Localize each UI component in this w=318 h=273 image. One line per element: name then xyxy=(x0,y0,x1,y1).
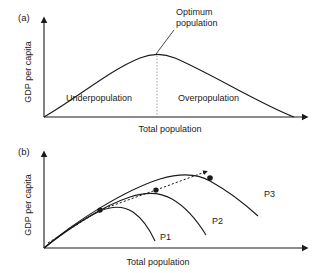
underpopulation-label: Underpopulation xyxy=(66,93,132,103)
peak-marker-p2 xyxy=(153,187,158,192)
curve-p2 xyxy=(44,193,206,248)
trajectory-segment-2 xyxy=(100,190,156,210)
panel-a: (a) GDP per capita Optimum population Un… xyxy=(18,7,303,134)
peak-marker-p3 xyxy=(207,175,213,181)
population-gdp-diagram: (a) GDP per capita Optimum population Un… xyxy=(0,0,318,273)
panel-b-x-axis-label: Total population xyxy=(126,257,189,267)
optimum-leader-line xyxy=(156,30,174,54)
panel-a-x-axis-label: Total population xyxy=(138,124,201,134)
panel-a-curve xyxy=(44,54,294,117)
optimum-annotation-line2: population xyxy=(176,18,218,28)
panel-a-label: (a) xyxy=(18,12,30,23)
curve-label-p3: P3 xyxy=(264,189,275,199)
panel-b-y-axis-label: GDP per capita xyxy=(23,174,33,235)
panel-b-label: (b) xyxy=(18,146,30,157)
trajectory-segment-1 xyxy=(48,210,100,243)
curve-label-p2: P2 xyxy=(212,216,223,226)
curve-label-p1: P1 xyxy=(160,232,171,242)
panel-b: (b) GDP per capita P1 P2 P3 Total popula… xyxy=(18,146,303,267)
curve-p3 xyxy=(44,175,258,248)
curve-p1 xyxy=(44,207,155,248)
optimum-annotation-line1: Optimum xyxy=(176,7,213,17)
panel-a-y-axis-label: GDP per capita xyxy=(23,41,33,102)
peak-marker-p1 xyxy=(97,207,102,212)
figure-container: (a) GDP per capita Optimum population Un… xyxy=(0,0,318,273)
overpopulation-label: Overpopulation xyxy=(178,93,239,103)
